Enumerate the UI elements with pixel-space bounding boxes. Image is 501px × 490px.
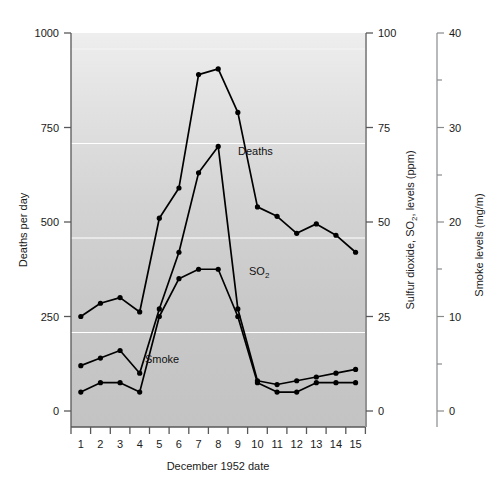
datapoint-so2-day-14 [333, 371, 338, 376]
axis-deaths [64, 33, 71, 427]
datapoint-deaths-day-9 [235, 110, 240, 115]
axis-title-deaths: Deaths per day [17, 192, 29, 267]
ticklabel-deaths-1000: 1000 [35, 27, 59, 39]
xticklabel-8: 8 [215, 438, 221, 450]
xticklabel-1: 1 [78, 438, 84, 450]
datapoint-so2-day-12 [294, 378, 299, 383]
xticklabel-15: 15 [349, 438, 361, 450]
xticklabel-3: 3 [117, 438, 123, 450]
axis-title-so2: Sulfur dioxide, SO2, levels (ppm) [404, 150, 419, 309]
axis-so2-ticklabels: 100 75 50 25 0 [378, 27, 396, 417]
series-label-so2-subscript: 2 [265, 271, 270, 280]
datapoint-so2-day-5 [157, 306, 162, 311]
datapoint-so2-day-9 [235, 306, 240, 311]
datapoint-smoke-day-12 [294, 390, 299, 395]
datapoint-smoke-day-8 [216, 267, 221, 272]
datapoint-deaths-day-8 [216, 66, 221, 71]
ticklabel-smoke-10: 10 [449, 311, 461, 323]
datapoint-smoke-day-6 [176, 276, 181, 281]
datapoint-deaths-day-11 [274, 214, 279, 219]
datapoint-smoke-day-11 [274, 390, 279, 395]
datapoint-deaths-day-15 [353, 250, 358, 255]
datapoint-smoke-day-2 [98, 380, 103, 385]
xticklabel-14: 14 [330, 438, 342, 450]
datapoint-smoke-day-7 [196, 267, 201, 272]
ticklabel-deaths-750: 750 [41, 122, 59, 134]
datapoint-so2-day-8 [216, 144, 221, 149]
datapoint-so2-day-4 [137, 371, 142, 376]
datapoint-so2-day-15 [353, 367, 358, 372]
axis-title-smoke: Smoke levels (mg/m) [473, 193, 485, 296]
ticklabel-so2-75: 75 [378, 122, 390, 134]
ticklabel-so2-25: 25 [378, 311, 390, 323]
datapoint-deaths-day-7 [196, 72, 201, 77]
datapoint-deaths-day-12 [294, 231, 299, 236]
axis-title-so2-main: Sulfur dioxide, SO [404, 220, 416, 309]
datapoint-so2-day-2 [98, 355, 103, 360]
axis-smoke-ticklabels: 40 30 20 10 0 [449, 27, 461, 417]
axis-title-so2-tail: , levels (ppm) [404, 150, 416, 216]
ticklabel-so2-100: 100 [378, 27, 396, 39]
datapoint-so2-day-3 [117, 348, 122, 353]
ticklabel-so2-0: 0 [378, 405, 384, 417]
ticklabel-deaths-250: 250 [41, 311, 59, 323]
datapoint-deaths-day-2 [98, 301, 103, 306]
axis-title-date: December 1952 date [167, 460, 270, 472]
datapoint-deaths-day-6 [176, 185, 181, 190]
datapoint-deaths-day-1 [78, 314, 83, 319]
xticklabel-11: 11 [271, 438, 282, 450]
datapoint-deaths-day-4 [137, 309, 142, 314]
datapoint-smoke-day-1 [78, 390, 83, 395]
datapoint-deaths-day-14 [333, 233, 338, 238]
ticklabel-so2-50: 50 [378, 216, 390, 228]
axis-smoke [437, 33, 444, 427]
xticklabel-5: 5 [156, 438, 162, 450]
datapoint-smoke-day-15 [353, 380, 358, 385]
ticklabel-smoke-30: 30 [449, 122, 461, 134]
xticks [71, 427, 365, 434]
ticklabel-deaths-0: 0 [53, 405, 59, 417]
axis-title-so2-group: Sulfur dioxide, SO2, levels (ppm) [404, 150, 419, 309]
chart-figure: 1000 750 500 250 0 Deaths per day [0, 0, 501, 490]
xticklabel-13: 13 [310, 438, 322, 450]
xticklabel-10: 10 [251, 438, 263, 450]
xticklabel-12: 12 [291, 438, 303, 450]
xticklabel-6: 6 [176, 438, 182, 450]
axis-date [71, 427, 365, 434]
smog-chart-svg: 1000 750 500 250 0 Deaths per day [0, 0, 501, 490]
axis-deaths-ticklabels: 1000 750 500 250 0 [35, 27, 59, 417]
plot-area-background [71, 33, 365, 427]
datapoint-so2-day-10 [255, 378, 260, 383]
datapoint-smoke-day-3 [117, 380, 122, 385]
series-label-smoke: Smoke [145, 353, 179, 365]
xticklabel-4: 4 [137, 438, 143, 450]
datapoint-so2-day-6 [176, 250, 181, 255]
datapoint-smoke-day-4 [137, 390, 142, 395]
ticklabel-deaths-500: 500 [41, 216, 59, 228]
datapoint-so2-day-1 [78, 363, 83, 368]
ticklabel-smoke-0: 0 [449, 405, 455, 417]
axis-so2 [366, 33, 373, 427]
datapoint-smoke-day-14 [333, 380, 338, 385]
datapoint-so2-day-7 [196, 170, 201, 175]
xticklabel-9: 9 [235, 438, 241, 450]
xticklabel-7: 7 [196, 438, 202, 450]
datapoint-deaths-day-5 [157, 216, 162, 221]
datapoint-smoke-day-13 [314, 380, 319, 385]
datapoint-deaths-day-3 [117, 295, 122, 300]
ticklabel-smoke-40: 40 [449, 27, 461, 39]
axis-date-ticklabels: 1 2 3 4 5 6 7 8 9 10 11 12 13 14 15 [78, 438, 362, 450]
datapoint-so2-day-13 [314, 374, 319, 379]
datapoint-deaths-day-10 [255, 204, 260, 209]
ticklabel-smoke-20: 20 [449, 216, 461, 228]
series-label-deaths: Deaths [238, 145, 273, 157]
xticklabel-2: 2 [97, 438, 103, 450]
datapoint-so2-day-11 [274, 382, 279, 387]
series-label-so2-main: SO [249, 265, 265, 277]
datapoint-deaths-day-13 [314, 221, 319, 226]
